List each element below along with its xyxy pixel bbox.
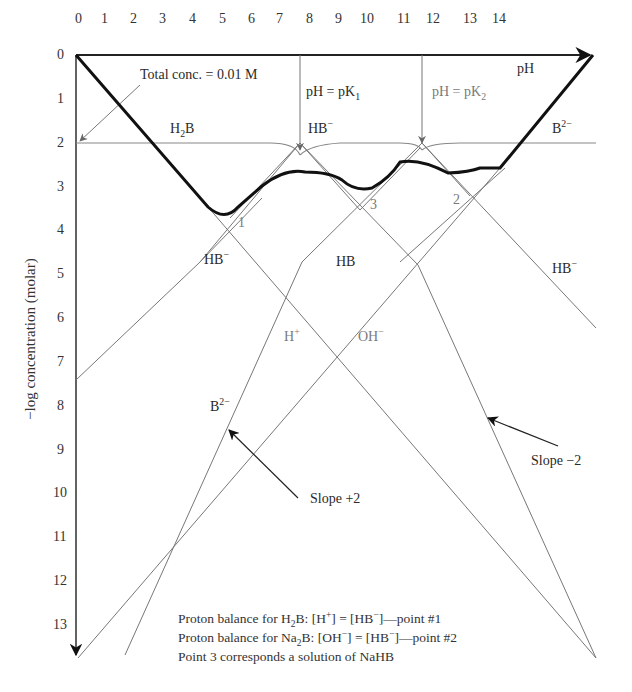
point-1-label: 1 bbox=[238, 216, 245, 230]
hb-text: HB bbox=[204, 252, 223, 267]
x-tick: 8 bbox=[306, 12, 313, 26]
plus-sup: + bbox=[294, 326, 300, 337]
x-tick: 14 bbox=[492, 12, 506, 26]
minus-sup: − bbox=[571, 258, 577, 269]
h-plus-label: H+ bbox=[284, 330, 300, 344]
x-tick: 7 bbox=[276, 12, 283, 26]
y-tick: 1 bbox=[57, 92, 64, 106]
point-3-label: 3 bbox=[370, 198, 377, 212]
x-tick: 5 bbox=[219, 12, 226, 26]
hb-text: HB bbox=[308, 121, 327, 136]
note-line-3: Point 3 corresponds a solution of NaHB bbox=[178, 650, 394, 664]
note-line-1: Proton balance for H2B: [H+] = [HB−]—poi… bbox=[178, 612, 441, 626]
point-2-label: 2 bbox=[453, 193, 460, 207]
note-text: ]—point #1 bbox=[379, 611, 442, 626]
h2b-h: H bbox=[170, 121, 180, 136]
slope-minus-2-label: Slope −2 bbox=[531, 454, 581, 468]
x-tick: 1 bbox=[101, 12, 108, 26]
note-text: ]—point #2 bbox=[394, 630, 457, 645]
note-line-2: Proton balance for Na2B: [OH−] = [HB−]—p… bbox=[178, 631, 457, 645]
y-tick: 7 bbox=[57, 355, 64, 369]
x-tick: 6 bbox=[248, 12, 255, 26]
x-tick: 0 bbox=[75, 12, 82, 26]
total-conc-label: Total conc. = 0.01 M bbox=[140, 68, 257, 82]
minus-sup: − bbox=[327, 118, 333, 129]
y-tick: 10 bbox=[53, 486, 67, 500]
note-text: Proton balance for Na bbox=[178, 630, 297, 645]
pk1-text: pH = pK bbox=[306, 84, 355, 99]
x-tick: 2 bbox=[130, 12, 137, 26]
y-tick: 11 bbox=[53, 530, 66, 544]
note-text: B: [OH bbox=[302, 630, 342, 645]
note-text: B: [H bbox=[296, 611, 326, 626]
pk1-label: pH = pK1 bbox=[306, 85, 360, 99]
note-text: Proton balance for H bbox=[178, 611, 291, 626]
hb-minus-left-label: HB− bbox=[204, 253, 229, 267]
note-text: ] = [HB bbox=[331, 611, 373, 626]
y-tick: 12 bbox=[53, 574, 67, 588]
h-text: H bbox=[284, 329, 294, 344]
hb-minus-right-line bbox=[422, 143, 596, 328]
y-tick: 0 bbox=[57, 48, 64, 62]
b-text: B bbox=[552, 121, 561, 136]
y-tick: 2 bbox=[57, 136, 64, 150]
h2b-label: H2B bbox=[170, 122, 194, 136]
pk2-label: pH = pK2 bbox=[432, 85, 486, 99]
minus-sup: − bbox=[378, 326, 384, 337]
x-tick: 13 bbox=[463, 12, 477, 26]
b-text: B bbox=[210, 399, 219, 414]
y-tick: 5 bbox=[57, 267, 64, 281]
b2-sup: 2− bbox=[219, 396, 229, 407]
oh-minus-label: OH− bbox=[358, 330, 384, 344]
hb-label: HB bbox=[336, 255, 355, 269]
h2b-b: B bbox=[185, 121, 194, 136]
slope-plus-2-label: Slope +2 bbox=[310, 492, 360, 506]
h-plus-line bbox=[208, 207, 596, 658]
hb-minus-right-label: HB− bbox=[552, 262, 577, 276]
hb-text: HB bbox=[552, 261, 571, 276]
x-tick: 9 bbox=[335, 12, 342, 26]
pk2-sub: 2 bbox=[481, 91, 486, 102]
b2-minus-top-label: B2− bbox=[552, 122, 572, 136]
oh-text: OH bbox=[358, 329, 378, 344]
y-tick: 6 bbox=[57, 311, 64, 325]
x-tick: 3 bbox=[159, 12, 166, 26]
log-concentration-chart bbox=[0, 0, 632, 692]
minus-sup: − bbox=[223, 249, 229, 260]
pk1-sub: 1 bbox=[355, 91, 360, 102]
hb-minus-top-label: HB− bbox=[308, 122, 333, 136]
y-tick: 9 bbox=[57, 443, 64, 457]
y-axis-label: −log concentration (molar) bbox=[22, 258, 39, 420]
slope-plus-2-arrow bbox=[229, 430, 298, 498]
point3-crossline-b bbox=[360, 148, 420, 210]
b2-sup: 2− bbox=[561, 118, 571, 129]
b2-minus-line bbox=[125, 143, 422, 655]
y-tick: 3 bbox=[57, 180, 64, 194]
b2-minus-left-label: B2− bbox=[210, 400, 230, 414]
x-tick: 12 bbox=[426, 12, 440, 26]
ph-axis-label: pH bbox=[517, 62, 534, 76]
y-tick: 13 bbox=[53, 618, 67, 632]
point2-crossline bbox=[422, 143, 470, 196]
pk2-text: pH = pK bbox=[432, 84, 481, 99]
point3-crossline-a bbox=[300, 143, 360, 210]
y-tick: 4 bbox=[57, 223, 64, 237]
x-tick: 4 bbox=[189, 12, 196, 26]
oh-minus-line bbox=[78, 168, 500, 658]
x-tick: 10 bbox=[360, 12, 374, 26]
y-tick: 8 bbox=[57, 399, 64, 413]
x-tick: 11 bbox=[397, 12, 410, 26]
note-text: ] = [HB bbox=[347, 630, 389, 645]
